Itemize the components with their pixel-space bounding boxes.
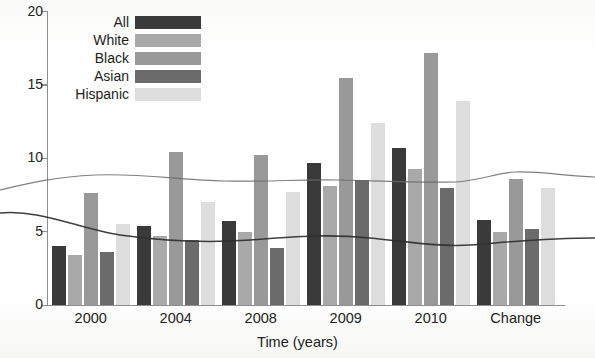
- bar: [440, 188, 454, 305]
- bar: [424, 53, 438, 305]
- bar: [169, 152, 183, 305]
- y-tick-label: 15: [3, 77, 43, 91]
- bar: [392, 148, 406, 305]
- bar: [541, 188, 555, 305]
- y-tick-label: 20: [3, 4, 43, 18]
- bar-chart: 05101520 20002004200820092010Change Time…: [0, 0, 595, 358]
- legend: AllWhiteBlackAsianHispanic: [60, 14, 201, 104]
- legend-item-label: All: [113, 15, 129, 29]
- legend-item: Black: [60, 50, 201, 67]
- y-tick-label: 5: [3, 224, 43, 238]
- bar: [270, 248, 284, 305]
- legend-item-swatch: [135, 70, 201, 83]
- bar: [137, 226, 151, 305]
- bar: [185, 240, 199, 305]
- legend-item-label: Hispanic: [75, 87, 129, 101]
- bar: [509, 179, 523, 305]
- x-axis-title: Time (years): [0, 334, 595, 350]
- bar: [201, 202, 215, 305]
- bar: [68, 255, 82, 305]
- legend-item-label: Black: [95, 51, 129, 65]
- bar: [525, 229, 539, 305]
- legend-item-swatch: [135, 52, 201, 65]
- bar: [493, 232, 507, 305]
- bar: [254, 155, 268, 305]
- y-tick-label: 10: [3, 150, 43, 164]
- bar: [84, 193, 98, 305]
- bar: [339, 78, 353, 305]
- bar: [371, 123, 385, 305]
- bar: [307, 163, 321, 305]
- legend-item: All: [60, 14, 201, 31]
- bar: [52, 246, 66, 305]
- bar: [100, 252, 114, 305]
- bar: [456, 101, 470, 305]
- legend-item: Hispanic: [60, 86, 201, 103]
- bar: [116, 224, 130, 305]
- legend-item-label: White: [93, 33, 129, 47]
- legend-item-swatch: [135, 16, 201, 29]
- bar: [408, 169, 422, 305]
- legend-item-label: Asian: [94, 69, 129, 83]
- x-tick-label: Change: [452, 311, 580, 326]
- y-tick-label: 0: [3, 297, 43, 311]
- bar: [238, 232, 252, 305]
- x-axis-line: [47, 305, 565, 306]
- bar: [355, 180, 369, 305]
- legend-item-swatch: [135, 34, 201, 47]
- bar: [153, 236, 167, 305]
- legend-item-swatch: [135, 88, 201, 101]
- legend-item: White: [60, 32, 201, 49]
- legend-item: Asian: [60, 68, 201, 85]
- bar: [477, 220, 491, 305]
- bar: [222, 221, 236, 305]
- bar: [286, 192, 300, 305]
- bar: [323, 186, 337, 305]
